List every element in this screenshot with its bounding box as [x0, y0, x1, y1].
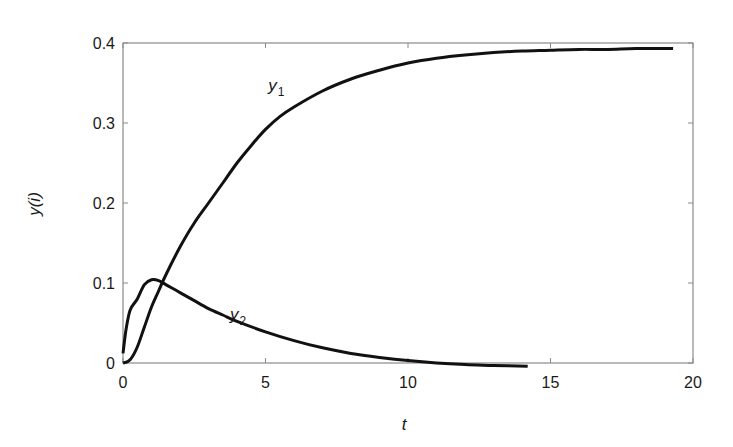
y-tick-label: 0.4 — [93, 35, 115, 52]
x-tick-labels: 05101520 — [119, 374, 702, 391]
x-tick-label: 10 — [399, 374, 417, 391]
y-tick-label: 0 — [106, 355, 115, 372]
series-label-y1: y1 — [267, 76, 285, 99]
x-tick-label: 0 — [119, 374, 128, 391]
y-tick-label: 0.1 — [93, 275, 115, 292]
x-tick-label: 5 — [261, 374, 270, 391]
y-axis-title: y(i) — [25, 192, 44, 217]
y-tick-label: 0.2 — [93, 195, 115, 212]
line-chart: 05101520 00.10.20.30.4 y1y2 t y(i) — [0, 0, 733, 447]
x-tick-label: 15 — [542, 374, 560, 391]
x-axis-title: t — [402, 415, 408, 434]
x-tick-label: 20 — [684, 374, 702, 391]
series-line-y1 — [123, 49, 673, 363]
series-labels: y1y2 — [229, 76, 285, 328]
series-curves — [123, 49, 673, 367]
series-label-y2: y2 — [229, 305, 247, 328]
series-line-y2 — [123, 280, 528, 367]
y-tick-label: 0.3 — [93, 115, 115, 132]
y-tick-labels: 00.10.20.30.4 — [93, 35, 115, 372]
